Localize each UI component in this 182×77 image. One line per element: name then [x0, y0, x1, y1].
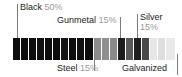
bar-segment-galvanized	[142, 38, 150, 60]
bar-segment-black	[13, 38, 21, 60]
bar-segment-black	[37, 38, 45, 60]
label-percent-black: 50%	[45, 2, 63, 12]
bar-segment-black	[53, 38, 61, 60]
callout-label-steel: Steel 15%	[57, 63, 98, 73]
leader-line-silver	[137, 14, 138, 38]
label-percent-silver: 15%	[140, 22, 163, 32]
leader-line-gunmetal	[120, 17, 121, 38]
label-percent-steel: 15%	[80, 63, 98, 73]
bar-segment-gunmetal	[118, 38, 126, 60]
callout-label-silver: Silver 15%	[140, 12, 163, 32]
label-name-steel: Steel	[57, 63, 80, 73]
label-percent-gunmetal: 15%	[99, 15, 117, 25]
leader-line-black	[17, 4, 18, 38]
metal-finish-distribution-chart: Black 50% Gunmetal 15% Silver 15% Steel …	[0, 0, 182, 77]
callout-label-gunmetal: Gunmetal 15%	[57, 15, 117, 25]
bar-segment-gunmetal	[134, 38, 142, 60]
callout-label-black: Black 50%	[20, 2, 63, 12]
bar-segment-black	[45, 38, 53, 60]
callout-label-galvanized: Galvanized	[122, 63, 167, 73]
bar-segment-black	[61, 38, 69, 60]
label-name-black: Black	[20, 2, 45, 12]
label-name-silver: Silver	[140, 12, 163, 22]
bar-segment-steel	[102, 38, 110, 60]
bar-segment-silver	[166, 38, 175, 60]
stacked-color-bar	[13, 38, 179, 60]
bar-segment-black	[21, 38, 29, 60]
bar-segment-steel	[110, 38, 118, 60]
label-name-gunmetal: Gunmetal	[57, 15, 99, 25]
leader-line-galvanized	[177, 54, 178, 75]
bar-segment-silver	[150, 38, 158, 60]
bar-segment-silver	[158, 38, 166, 60]
bar-segment-gunmetal	[126, 38, 134, 60]
label-name-galvanized: Galvanized	[122, 63, 167, 73]
bar-segment-black	[85, 38, 94, 60]
bar-segment-black	[29, 38, 37, 60]
bar-segment-black	[77, 38, 85, 60]
bar-segment-black	[69, 38, 77, 60]
bar-segment-steel	[94, 38, 102, 60]
